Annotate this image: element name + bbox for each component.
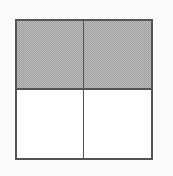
fraction-area-model-grid: top-left shaded square top-right shaded …	[15, 19, 153, 160]
grid-cell-bottom-left: bottom-left white square	[17, 90, 84, 159]
figure-canvas: top-left shaded square top-right shaded …	[0, 0, 173, 176]
grid-cell-bottom-right: bottom-right white square	[84, 90, 151, 159]
grid-cell-top-right: top-right shaded square	[84, 21, 151, 90]
grid-cell-top-left: top-left shaded square	[17, 21, 84, 90]
